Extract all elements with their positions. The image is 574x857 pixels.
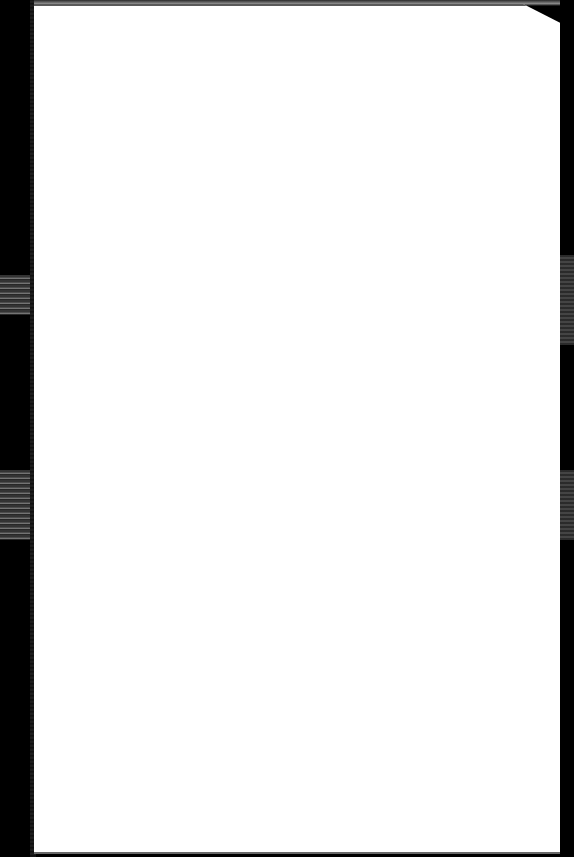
page-content <box>34 6 560 852</box>
scan-artifact-band <box>0 275 30 315</box>
scan-right-edge <box>560 0 574 857</box>
scan-artifact-band <box>0 470 30 540</box>
scan-background <box>0 0 574 857</box>
blank-document-page <box>34 4 560 854</box>
scan-artifact-band <box>560 255 574 345</box>
scan-artifact-band <box>560 470 574 540</box>
